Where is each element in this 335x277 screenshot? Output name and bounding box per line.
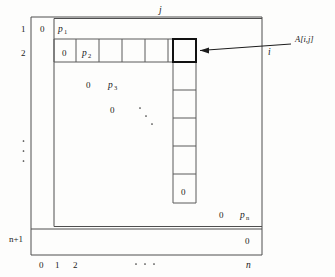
column-cell-strip bbox=[173, 62, 196, 203]
svg-text:p: p bbox=[57, 24, 63, 34]
cell-value-row1-zero: 0 bbox=[40, 24, 45, 34]
row-label-2: 2 bbox=[21, 48, 26, 58]
diagonal-dots bbox=[139, 107, 153, 125]
row-label-n-plus-1: n+1 bbox=[9, 234, 23, 244]
col-label-0: 0 bbox=[39, 260, 44, 270]
cell-value-row2-p2: p 2 bbox=[81, 48, 91, 59]
svg-text:p: p bbox=[239, 210, 245, 220]
col-label-horizontal-dots bbox=[135, 263, 155, 265]
axis-label-right-i: i bbox=[268, 47, 271, 57]
figure-canvas: A[i,j] j i 1 2 n+1 0 1 2 n 0 p 1 bbox=[0, 0, 335, 277]
cell-value-rown-zero: 0 bbox=[219, 210, 224, 220]
col-label-2: 2 bbox=[73, 260, 78, 270]
col-label-1: 1 bbox=[55, 260, 60, 270]
row-label-vertical-dots bbox=[23, 140, 25, 162]
header-band-rules bbox=[54, 39, 196, 62]
cell-value-row4-zero: 0 bbox=[110, 105, 115, 115]
svg-text:p: p bbox=[81, 48, 87, 58]
cell-value-column-bottom-zero: 0 bbox=[181, 187, 186, 197]
highlighted-cell-aij[interactable] bbox=[173, 39, 196, 62]
svg-text:3: 3 bbox=[114, 84, 117, 91]
svg-text:p: p bbox=[107, 80, 113, 90]
svg-text:1: 1 bbox=[64, 28, 67, 35]
annotation-label: A[i,j] bbox=[294, 34, 314, 44]
svg-text:n: n bbox=[246, 214, 250, 221]
matrix-table-figure: A[i,j] j i 1 2 n+1 0 1 2 n 0 p 1 bbox=[0, 0, 335, 277]
cell-value-row1-p1: p 1 bbox=[57, 24, 67, 35]
cell-value-row2-zero: 0 bbox=[62, 48, 67, 58]
cell-value-row3-zero: 0 bbox=[86, 80, 91, 90]
cell-value-row3-p3: p 3 bbox=[107, 80, 117, 91]
row2-cell-strip bbox=[54, 39, 168, 62]
cell-value-rownplus1-zero: 0 bbox=[245, 236, 250, 246]
axis-label-top-j: j bbox=[157, 5, 162, 15]
svg-text:2: 2 bbox=[88, 52, 91, 59]
cell-value-rown-pn: p n bbox=[239, 210, 250, 221]
row-label-1: 1 bbox=[21, 24, 26, 34]
annotation-arrow bbox=[200, 44, 291, 53]
col-label-n: n bbox=[246, 260, 251, 270]
